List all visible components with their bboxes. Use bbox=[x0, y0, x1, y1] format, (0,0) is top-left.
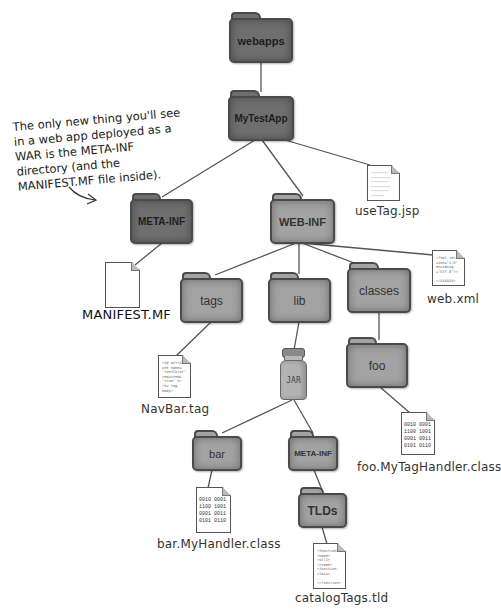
file-content: 0010 0001 1100 1001 0001 0011 0101 0110 bbox=[199, 497, 226, 525]
file-web-xml[interactable]: <?xml ver sion="1.0" encoding ="UTF-8"?>… bbox=[432, 250, 465, 286]
file-label-usetag-jsp: useTag.jsp bbox=[355, 204, 420, 218]
file-content: <%@ attrib ute name= "fontColor" require… bbox=[162, 361, 186, 393]
folder-label: WEB-INF bbox=[279, 216, 326, 228]
file-label-web-xml: web.xml bbox=[427, 292, 479, 306]
file-bar-class[interactable]: 0010 0001 1100 1001 0001 0011 0101 0110 bbox=[196, 487, 231, 533]
file-navbar-tag[interactable]: <%@ attrib ute name= "fontColor" require… bbox=[158, 355, 191, 398]
jar-label: JAR bbox=[286, 376, 300, 385]
file-catalog-tld[interactable]: <function> <name> rollIt </name> <functi… bbox=[313, 543, 346, 589]
file-label-manifest-mf: MANIFEST.MF bbox=[82, 307, 171, 322]
file-content: <?xml ver sion="1.0" encoding ="UTF-8"?>… bbox=[436, 256, 460, 284]
folder-label: bar bbox=[209, 448, 225, 460]
file-content: 0010 0001 1100 1001 0001 0011 0101 0110 bbox=[404, 422, 431, 450]
folder-label: TLDs bbox=[308, 504, 338, 518]
folder-bar[interactable]: bar bbox=[192, 430, 242, 471]
file-foo-class[interactable]: 0010 0001 1100 1001 0001 0011 0101 0110 bbox=[401, 412, 435, 455]
folder-label: webapps bbox=[237, 35, 284, 47]
folder-label: classes bbox=[359, 284, 399, 298]
file-content: ~~~~~~~~ ~~~~~~~~~ ~~~~~~~~ ~~~~~~~~~ ~~… bbox=[371, 171, 395, 203]
folder-label: META-INF bbox=[294, 449, 332, 458]
file-label-bar-class: bar.MyHandler.class bbox=[157, 537, 281, 551]
folder-meta-inf-jar[interactable]: META-INF bbox=[288, 430, 338, 471]
folder-foo[interactable]: foo bbox=[346, 337, 408, 388]
folder-web-inf[interactable]: WEB-INF bbox=[270, 193, 335, 244]
annotation-note: The only new thing you'll see in a web a… bbox=[12, 105, 188, 195]
folder-label: lib bbox=[293, 294, 305, 308]
file-label-catalog-tld: catalogTags.tld bbox=[295, 591, 388, 605]
file-content: <function> <name> rollIt </name> <functi… bbox=[317, 549, 341, 586]
file-label-navbar-tag: NavBar.tag bbox=[141, 402, 209, 416]
file-label-foo-class: foo.MyTagHandler.class bbox=[357, 460, 501, 474]
folder-webapps[interactable]: webapps bbox=[229, 12, 293, 63]
folder-label: foo bbox=[369, 359, 386, 373]
file-manifest-mf[interactable] bbox=[105, 262, 140, 308]
folder-meta-inf[interactable]: META-INF bbox=[130, 193, 193, 244]
jar-file[interactable]: JAR bbox=[280, 348, 307, 400]
folder-label: tags bbox=[200, 294, 223, 308]
folder-mytestapp[interactable]: MyTestApp bbox=[228, 90, 294, 141]
folder-tags[interactable]: tags bbox=[180, 272, 243, 323]
folder-lib[interactable]: lib bbox=[268, 272, 331, 323]
folder-classes[interactable]: classes bbox=[347, 262, 411, 313]
folder-label: META-INF bbox=[138, 216, 185, 227]
folder-label: MyTestApp bbox=[234, 113, 287, 124]
folder-tlds[interactable]: TLDs bbox=[298, 487, 347, 528]
file-usetag-jsp[interactable]: ~~~~~~~~ ~~~~~~~~~ ~~~~~~~~ ~~~~~~~~~ ~~… bbox=[367, 165, 400, 201]
